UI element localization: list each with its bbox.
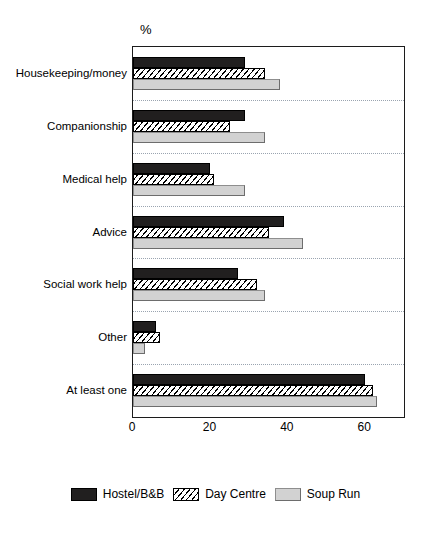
axis-unit-label: %	[140, 22, 152, 37]
bar-hostel-bb	[133, 163, 210, 174]
light-gray-swatch	[275, 488, 301, 501]
bar-row	[133, 185, 404, 196]
bar-row	[133, 279, 404, 290]
bar-group	[133, 374, 404, 407]
bar-row	[133, 385, 404, 396]
bar-soup-run	[133, 343, 145, 354]
category-label: Other	[4, 331, 132, 343]
legend-item: Hostel/B&B	[71, 487, 164, 501]
gridline	[133, 258, 404, 259]
category-label: Medical help	[4, 173, 132, 185]
bar-chart: % Housekeeping/moneyCompanionshipMedical…	[0, 0, 431, 535]
bar-group	[133, 110, 404, 143]
x-tick-label: 20	[203, 420, 216, 434]
bar-row	[133, 321, 404, 332]
bar-soup-run	[133, 396, 377, 407]
bar-row	[133, 216, 404, 227]
bar-row	[133, 332, 404, 343]
bar-hostel-bb	[133, 374, 365, 385]
category-label: Social work help	[4, 278, 132, 290]
bar-day-centre	[133, 385, 373, 396]
legend-label: Hostel/B&B	[103, 487, 164, 501]
bar-row	[133, 227, 404, 238]
category-label: Advice	[4, 226, 132, 238]
bar-row	[133, 163, 404, 174]
bar-hostel-bb	[133, 321, 156, 332]
x-tick-label: 40	[280, 420, 293, 434]
bar-soup-run	[133, 290, 265, 301]
legend-item: Soup Run	[275, 487, 360, 501]
bar-group	[133, 163, 404, 196]
bar-row	[133, 57, 404, 68]
bar-hostel-bb	[133, 57, 245, 68]
gridline	[133, 100, 404, 101]
bar-day-centre	[133, 332, 160, 343]
gridline	[133, 153, 404, 154]
bar-row	[133, 132, 404, 143]
bar-soup-run	[133, 132, 265, 143]
bar-soup-run	[133, 238, 303, 249]
bar-row	[133, 79, 404, 90]
x-tick-label: 0	[129, 420, 136, 434]
bar-soup-run	[133, 79, 280, 90]
category-label: At least one	[4, 384, 132, 396]
bar-day-centre	[133, 68, 265, 79]
bar-row	[133, 374, 404, 385]
bar-soup-run	[133, 185, 245, 196]
bar-row	[133, 290, 404, 301]
x-tick-label: 60	[358, 420, 371, 434]
plot-area	[132, 46, 405, 418]
bar-group	[133, 268, 404, 301]
bar-day-centre	[133, 174, 214, 185]
bar-row	[133, 174, 404, 185]
gridline	[133, 364, 404, 365]
gridline	[133, 311, 404, 312]
bar-row	[133, 110, 404, 121]
bar-hostel-bb	[133, 268, 238, 279]
bar-row	[133, 343, 404, 354]
bar-day-centre	[133, 227, 269, 238]
bar-row	[133, 121, 404, 132]
category-label: Companionship	[4, 120, 132, 132]
bar-hostel-bb	[133, 110, 245, 121]
bar-row	[133, 68, 404, 79]
legend-label: Day Centre	[205, 487, 266, 501]
bar-row	[133, 396, 404, 407]
legend-label: Soup Run	[307, 487, 360, 501]
bar-hostel-bb	[133, 216, 284, 227]
gridline	[133, 206, 404, 207]
legend-item: Day Centre	[173, 487, 266, 501]
category-axis-labels: Housekeeping/moneyCompanionshipMedical h…	[0, 46, 132, 418]
bar-group	[133, 216, 404, 249]
bar-day-centre	[133, 279, 257, 290]
diagonal-hatch-swatch	[173, 488, 199, 501]
x-axis-ticks: 0204060	[132, 420, 405, 440]
category-label: Housekeeping/money	[4, 67, 132, 79]
bar-group	[133, 321, 404, 354]
chart-legend: Hostel/B&BDay CentreSoup Run	[0, 487, 431, 501]
solid-black-swatch	[71, 488, 97, 501]
bar-row	[133, 268, 404, 279]
bar-day-centre	[133, 121, 230, 132]
bar-row	[133, 238, 404, 249]
bar-group	[133, 57, 404, 90]
